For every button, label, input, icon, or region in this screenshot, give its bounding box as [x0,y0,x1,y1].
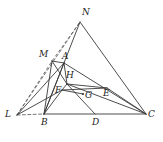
vertex-label-b: B [41,118,48,127]
geometry-figure: NMAHFGELBDC [0,0,163,142]
dashed-L-B [17,114,44,115]
vertex-label-h: H [66,71,74,80]
vertex-label-m: M [39,50,48,59]
vertex-label-e: E [103,89,110,98]
vertex-label-l: L [5,110,11,119]
segment-H-F [62,84,67,90]
geometry-canvas [0,0,163,142]
point-markers-group [82,93,84,95]
vertex-label-c: C [148,110,155,119]
point-marker-g [82,93,84,95]
dashed-lines-group [17,22,80,115]
vertex-label-a: A [62,52,69,61]
segment-M-A [52,61,64,63]
vertex-label-g: G [85,91,92,100]
segment-F-G [62,90,83,94]
solid-lines-group [17,22,146,115]
vertex-label-f: F [55,86,61,95]
vertex-label-d: D [92,118,99,127]
vertex-label-n: N [82,8,90,17]
segment-N-C [80,22,146,114]
segment-M-H [52,61,67,84]
